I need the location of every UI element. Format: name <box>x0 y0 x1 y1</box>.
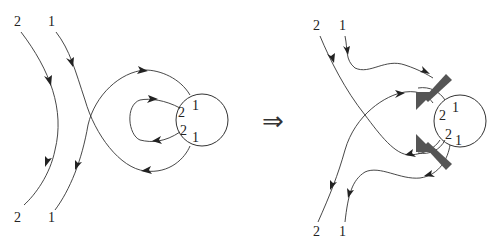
left-strand-2 <box>21 32 58 205</box>
left-bottom-label-1: 1 <box>48 210 55 225</box>
arrow-icon <box>420 66 430 74</box>
arrow-icon <box>347 188 354 198</box>
left-panel: 2 1 2 1 2 1 2 1 <box>14 14 228 225</box>
arrow-icon <box>75 160 82 170</box>
diagram-canvas: 2 1 2 1 2 1 2 1 ⇒ 2 1 2 1 <box>0 0 498 241</box>
right-circle-label-1-lower: 1 <box>455 133 462 148</box>
left-circle-label-2-lower: 2 <box>180 123 187 138</box>
left-circle <box>176 94 228 146</box>
right-bottom-label-1: 1 <box>339 224 346 239</box>
right-bottom-label-2: 2 <box>313 224 320 239</box>
right-circle-label-2-upper: 2 <box>439 108 446 123</box>
arrow-icon <box>405 149 416 157</box>
arrow-icon <box>330 180 337 190</box>
left-top-label-2: 2 <box>14 14 21 29</box>
left-circle-label-1-upper: 1 <box>192 98 199 113</box>
left-circle-label-2-upper: 2 <box>178 105 185 120</box>
right-circle-label-2-lower: 2 <box>445 127 452 142</box>
left-strand-1-in <box>56 32 190 171</box>
right-panel: 2 1 2 1 2 1 2 <box>313 18 486 239</box>
right-circle-label-1-upper: 1 <box>452 100 459 115</box>
arrow-icon <box>66 57 74 67</box>
left-strand-1-out <box>55 70 190 210</box>
left-bottom-label-2: 2 <box>14 210 21 225</box>
arrow-icon <box>141 166 152 174</box>
left-top-label-1: 1 <box>48 14 55 29</box>
right-top-label-2: 2 <box>313 18 320 33</box>
right-strand-1-in <box>345 36 433 78</box>
left-inner-loop <box>130 99 180 141</box>
arrow-icon <box>152 136 162 144</box>
upper-thick-arrow-icon <box>416 74 452 110</box>
left-circle-label-1-lower: 1 <box>192 130 199 145</box>
right-top-label-1: 1 <box>339 18 346 33</box>
implies-arrow-icon: ⇒ <box>262 106 284 136</box>
